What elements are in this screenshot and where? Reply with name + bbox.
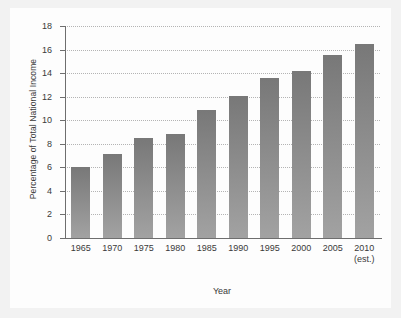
x-axis-tick-label: 1965: [65, 243, 97, 254]
gridline: [65, 50, 380, 51]
y-axis-tick-label: 14: [42, 69, 52, 78]
x-axis-tick-label: 1985: [191, 243, 223, 254]
chart-figure: Percentage of Total National Income 0246…: [0, 0, 401, 318]
x-axis-tick-label: 1995: [254, 243, 286, 254]
bar: [71, 167, 90, 238]
y-axis-tick-mark: [60, 167, 65, 168]
y-axis-tick-label: 18: [42, 22, 52, 31]
bar: [355, 44, 374, 238]
y-axis-tick-label: 0: [47, 234, 52, 243]
x-axis-tick-label: 1970: [97, 243, 129, 254]
y-axis-tick-mark: [60, 120, 65, 121]
bar: [166, 134, 185, 238]
y-axis-tick-label: 16: [42, 45, 52, 54]
y-axis-tick-mark: [60, 191, 65, 192]
x-axis-tick-label: 1980: [160, 243, 192, 254]
bar: [103, 154, 122, 238]
plot-area: [65, 26, 380, 238]
y-axis-tick-mark: [60, 238, 65, 239]
y-axis-line: [65, 26, 66, 239]
bar: [197, 110, 216, 238]
x-axis-tick-label: 2005: [317, 243, 349, 254]
x-axis-line: [65, 238, 382, 239]
y-axis-tick-label: 8: [47, 139, 52, 148]
y-axis-tick-mark: [60, 73, 65, 74]
x-axis-tick-label: 1975: [128, 243, 160, 254]
x-axis-tick-label: 2000: [286, 243, 318, 254]
x-axis-tick-label: 1990: [223, 243, 255, 254]
y-axis-tick-mark: [60, 50, 65, 51]
y-axis-tick-label: 2: [47, 210, 52, 219]
x-axis-title: Year: [57, 286, 387, 296]
y-axis-tick-label: 6: [47, 163, 52, 172]
bar: [134, 138, 153, 238]
y-axis-tick-mark: [60, 214, 65, 215]
x-axis-tick-label: 2010(est.): [349, 243, 381, 265]
y-axis-tick-mark: [60, 26, 65, 27]
x-axis-tick-sublabel: (est.): [349, 254, 381, 265]
bar: [323, 55, 342, 238]
y-axis-tick-label: 12: [42, 92, 52, 101]
bar: [260, 78, 279, 238]
gridline: [65, 26, 380, 27]
y-axis-tick-label: 10: [42, 116, 52, 125]
x-axis-ticks: 1965197019751980198519901995200020052010…: [65, 243, 380, 283]
y-axis-tick-mark: [60, 144, 65, 145]
bar: [292, 71, 311, 238]
bar: [229, 96, 248, 239]
y-axis-tick-mark: [60, 97, 65, 98]
y-axis-tick-label: 4: [47, 186, 52, 195]
y-axis-ticks: 024681012141618: [0, 26, 60, 238]
